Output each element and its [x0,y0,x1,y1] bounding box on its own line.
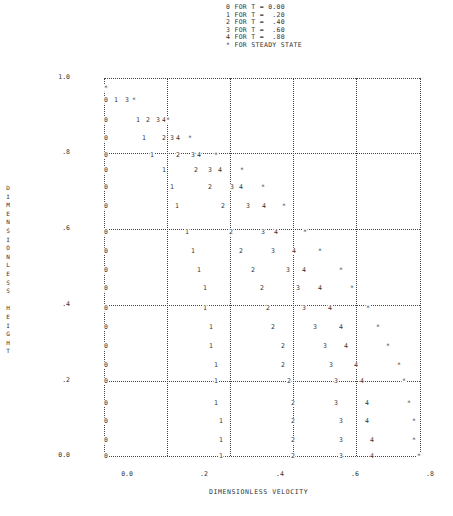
data-marker: * [397,362,402,369]
data-marker: * [214,152,219,159]
data-marker: * [402,378,407,385]
gridline-horizontal [104,305,420,306]
data-marker: 3 [296,285,301,292]
x-tick-label: .8 [426,470,434,478]
data-marker: 4 [365,418,370,425]
gridline-vertical [167,78,168,456]
data-marker: 1 [209,343,214,350]
data-marker: 2 [266,305,271,312]
data-marker: 3 [339,437,344,444]
data-marker: 0 [104,362,109,369]
data-marker: 2 [291,400,296,407]
data-marker: * [303,229,308,236]
data-marker: 1 [219,453,224,460]
data-marker: 4 [365,400,370,407]
data-marker: 1 [203,305,208,312]
data-marker: 1 [219,418,224,425]
data-marker: 2 [176,152,181,159]
data-marker: 1 [170,184,175,191]
data-marker: * [386,343,391,350]
data-marker: 4 [328,305,333,312]
data-marker: 4 [176,135,181,142]
x-tick-label: .2 [200,470,208,478]
data-marker: 4 [370,453,375,460]
data-marker: * [417,453,422,460]
data-marker: 1 [197,267,202,274]
gridline-vertical [230,78,231,456]
data-marker: 1 [185,229,190,236]
data-marker: * [282,203,287,210]
data-marker: 3 [313,324,318,331]
data-marker: 1 [162,167,167,174]
data-marker: 1 [203,285,208,292]
data-marker: 0 [104,418,109,425]
data-marker: 2 [291,437,296,444]
data-marker: 3 [323,343,328,350]
data-marker: 3 [261,229,266,236]
data-marker: 2 [162,135,167,142]
data-marker: 4 [292,248,297,255]
data-marker: 0 [104,135,109,142]
data-marker: 2 [194,167,199,174]
data-marker: 3 [329,362,334,369]
data-marker: 2 [239,248,244,255]
y-tick-label: .4 [40,300,70,308]
data-marker: 1 [142,135,147,142]
data-marker: * [412,418,417,425]
data-marker: 4 [197,152,202,159]
data-marker: 0 [104,437,109,444]
data-marker: 3 [286,267,291,274]
data-marker: 2 [221,203,226,210]
y-tick-label: 0.0 [40,451,70,459]
data-marker: 0 [104,267,109,274]
y-tick-label: .6 [40,224,70,232]
data-marker: 2 [287,378,292,385]
y-tick-label: .8 [40,148,70,156]
data-marker: 2 [251,267,256,274]
data-marker: 2 [281,343,286,350]
data-marker: 2 [291,418,296,425]
data-marker: 1 [114,97,119,104]
x-tick-label: .4 [276,470,284,478]
data-marker: 3 [125,97,130,104]
data-marker: 3 [271,248,276,255]
data-marker: 4 [274,229,279,236]
plot-area: 1.0.8.6.4.20.00.0.2.4.6.8*013*01234*0123… [0,0,453,516]
data-marker: 4 [360,378,365,385]
data-marker: * [240,167,245,174]
data-marker: 0 [104,184,109,191]
y-tick-label: 1.0 [40,73,70,81]
data-marker: 1 [219,437,224,444]
data-marker: 4 [370,437,375,444]
data-marker: 2 [291,453,296,460]
data-marker: * [132,97,137,104]
data-marker: 3 [334,400,339,407]
data-marker: 3 [334,378,339,385]
data-marker: * [339,267,344,274]
data-marker: 1 [150,152,155,159]
gridline-vertical [420,78,421,456]
data-marker: 2 [208,184,213,191]
data-marker: * [261,184,266,191]
data-marker: 2 [146,117,151,124]
data-marker: 1 [209,324,214,331]
data-marker: 1 [214,400,219,407]
data-marker: 0 [104,167,109,174]
data-marker: 4 [339,324,344,331]
data-marker: 3 [339,418,344,425]
data-marker: 1 [214,378,219,385]
data-marker: 0 [104,453,109,460]
data-marker: 4 [218,167,223,174]
gridline-vertical [356,78,357,456]
data-marker: * [366,305,371,312]
x-tick-label: .6 [351,470,359,478]
data-marker: 1 [136,117,141,124]
data-marker: 3 [208,167,213,174]
data-marker: 0 [104,203,109,210]
data-marker: 4 [354,362,359,369]
data-marker: 0 [104,324,109,331]
data-marker: * [104,85,109,92]
data-marker: * [318,248,323,255]
data-marker: * [412,437,417,444]
data-marker: 3 [302,305,307,312]
